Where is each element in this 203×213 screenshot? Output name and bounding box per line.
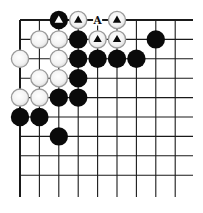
labels-layer: A bbox=[93, 14, 103, 26]
black-stone bbox=[69, 50, 87, 68]
white-stone bbox=[50, 70, 67, 87]
black-stone bbox=[50, 88, 68, 106]
white-stone bbox=[70, 11, 87, 28]
white-stone-body bbox=[31, 31, 48, 48]
white-stone-body bbox=[50, 31, 67, 48]
white-stone-body bbox=[31, 89, 48, 106]
black-stone bbox=[69, 30, 87, 48]
black-stone-body bbox=[69, 30, 87, 48]
black-stone-body bbox=[50, 88, 68, 106]
black-stone bbox=[108, 50, 126, 68]
board-grid bbox=[20, 20, 193, 197]
black-stone-body bbox=[50, 127, 68, 145]
white-stone-body bbox=[50, 50, 67, 67]
go-board: A bbox=[0, 0, 203, 213]
black-stone bbox=[69, 88, 87, 106]
black-stone bbox=[50, 127, 68, 145]
white-stone-body bbox=[11, 50, 28, 67]
black-stone bbox=[127, 50, 145, 68]
black-stone bbox=[30, 108, 48, 126]
black-stone bbox=[147, 30, 165, 48]
white-stone bbox=[108, 11, 125, 28]
white-stone-body bbox=[31, 70, 48, 87]
white-stone bbox=[31, 31, 48, 48]
board-label: A bbox=[93, 14, 103, 26]
white-stone bbox=[50, 50, 67, 67]
black-stone-body bbox=[30, 108, 48, 126]
black-stone-body bbox=[88, 50, 106, 68]
white-stone bbox=[11, 89, 28, 106]
black-stone-body bbox=[127, 50, 145, 68]
board-label-text: A bbox=[93, 14, 103, 26]
white-stone-body bbox=[50, 70, 67, 87]
black-stone bbox=[50, 11, 68, 29]
black-stone-body bbox=[108, 50, 126, 68]
white-stone bbox=[89, 31, 106, 48]
white-stone bbox=[50, 31, 67, 48]
black-stone bbox=[11, 108, 29, 126]
black-stone-body bbox=[69, 69, 87, 87]
black-stone-body bbox=[11, 108, 29, 126]
black-stone-body bbox=[69, 50, 87, 68]
black-stone bbox=[69, 69, 87, 87]
black-stone bbox=[88, 50, 106, 68]
black-stone-body bbox=[147, 30, 165, 48]
black-stone-body bbox=[69, 88, 87, 106]
white-stone-body bbox=[11, 89, 28, 106]
white-stone bbox=[11, 50, 28, 67]
white-stone bbox=[31, 70, 48, 87]
white-stone bbox=[108, 31, 125, 48]
white-stone bbox=[31, 89, 48, 106]
